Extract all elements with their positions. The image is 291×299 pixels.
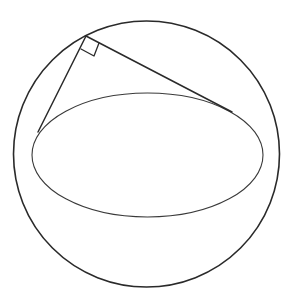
right-angle-marker-icon [81, 43, 99, 56]
sphere-tangent-diagram [0, 0, 291, 299]
outer-circle-sphere [14, 21, 280, 287]
diagram-canvas [0, 0, 291, 299]
right-tangent-line [86, 36, 232, 112]
ellipse-cross-section [32, 93, 263, 217]
